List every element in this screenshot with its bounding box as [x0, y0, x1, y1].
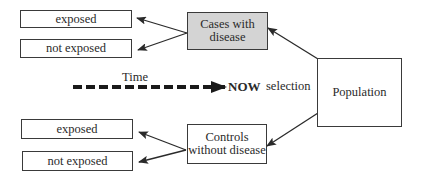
controls-not-exposed-label: not exposed: [47, 155, 107, 168]
controls-exposed-label: exposed: [57, 123, 98, 136]
population-box: Population: [317, 58, 402, 127]
time-label: Time: [122, 70, 148, 85]
controls-exposed-box: exposed: [21, 119, 133, 139]
cases-not-exposed-label: not exposed: [46, 42, 106, 55]
population-label: Population: [332, 86, 386, 99]
cases-exposed-box: exposed: [20, 10, 132, 28]
controls-not-exposed-box: not exposed: [22, 151, 133, 171]
controls-box: Controls without disease: [187, 124, 267, 164]
controls-label-line2: without disease: [188, 144, 265, 157]
cases-exposed-label: exposed: [56, 13, 97, 26]
cases-label-line2: disease: [209, 31, 245, 44]
cases-box: Cases with disease: [187, 12, 268, 50]
cases-not-exposed-box: not exposed: [20, 39, 132, 58]
selection-label: selection: [266, 79, 310, 94]
now-label: NOW: [228, 79, 261, 95]
